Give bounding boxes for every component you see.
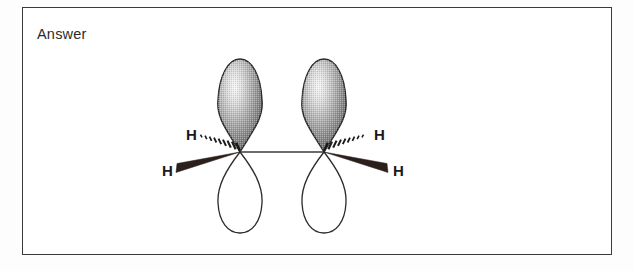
h-label-lower-left: H [162, 162, 173, 179]
orbital-diagram: H H [0, 0, 634, 271]
p-orbital-lower-lobe-left [218, 152, 262, 233]
carbon-right-group: H H [298, 55, 404, 233]
h-label-upper-right: H [374, 126, 385, 143]
carbon-left-group: H H [162, 55, 268, 233]
screenshot-root: Answer [0, 0, 634, 271]
p-orbital-upper-lobe-left [214, 55, 268, 155]
h-label-lower-right: H [393, 162, 404, 179]
p-orbital-lower-lobe-right [302, 152, 346, 233]
h-label-upper-left: H [186, 126, 197, 143]
